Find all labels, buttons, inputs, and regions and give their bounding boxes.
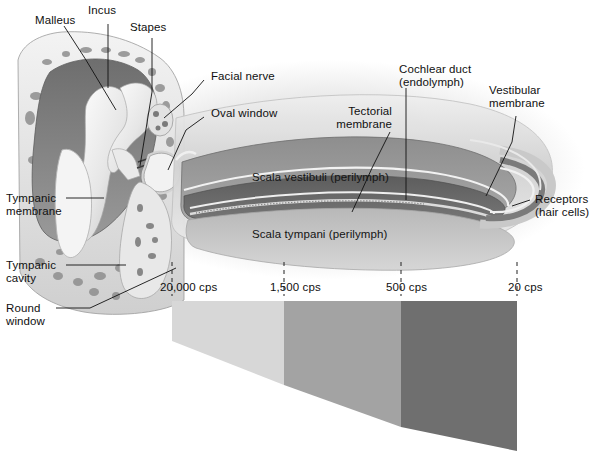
band-bar-1 bbox=[172, 301, 284, 385]
label-incus: Incus bbox=[88, 4, 116, 17]
label-stapes: Stapes bbox=[130, 21, 166, 34]
band-bar-2 bbox=[284, 301, 401, 427]
label-scala-vestibuli: Scala vestibuli (perilymph) bbox=[252, 171, 389, 184]
label-vestibular-membrane: Vestibular membrane bbox=[489, 84, 545, 109]
label-tympanic-cavity: Tympanic cavity bbox=[6, 259, 56, 284]
freq-tick-label-1: 1,500 cps bbox=[270, 281, 321, 294]
label-tympanic-membrane: Tympanic membrane bbox=[6, 192, 62, 217]
freq-tick-label-3: 20 cps bbox=[508, 281, 542, 294]
freq-tick-label-0: 20,000 cps bbox=[160, 281, 217, 294]
label-cochlear-duct: Cochlear duct (endolymph) bbox=[399, 63, 471, 88]
band-bar-3 bbox=[401, 301, 517, 451]
label-malleus: Malleus bbox=[35, 14, 75, 27]
label-facial-nerve: Facial nerve bbox=[211, 70, 275, 83]
label-tectorial-membrane: Tectorial membrane bbox=[330, 105, 392, 130]
label-round-window: Round window bbox=[6, 302, 45, 327]
label-oval-window: Oval window bbox=[211, 107, 277, 120]
label-receptors-hair-cells: Receptors (hair cells) bbox=[535, 193, 589, 218]
frequency-band-wedge bbox=[172, 301, 517, 451]
freq-tick-label-2: 500 cps bbox=[386, 281, 427, 294]
label-scala-tympani: Scala tympani (perilymph) bbox=[252, 228, 387, 241]
